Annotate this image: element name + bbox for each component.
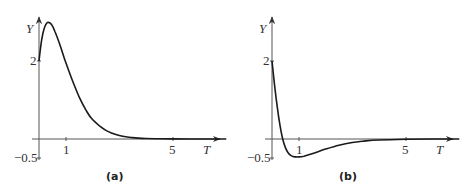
x-tick-label-5: 5 bbox=[402, 142, 409, 157]
x-tick-label-5: 5 bbox=[169, 142, 176, 157]
chart-panel-a: 1 5 T Y 2 −0.5 (a) bbox=[14, 17, 226, 183]
chart-panel-b: 1 5 T Y 2 −0.5 (b) bbox=[247, 17, 459, 183]
panel-label-b: (b) bbox=[339, 170, 357, 183]
x-tick-label-1: 1 bbox=[63, 142, 70, 157]
panel-label-a: (a) bbox=[106, 170, 123, 183]
curve-a bbox=[39, 22, 226, 139]
x-tick-label-1: 1 bbox=[296, 142, 303, 157]
y-tick-label-neg05: −0.5 bbox=[14, 150, 38, 165]
figure: 1 5 T Y 2 −0.5 (a) 1 5 T Y 2 −0.5 (b) bbox=[0, 0, 465, 191]
y-axis-label: Y bbox=[26, 21, 35, 36]
y-tick-label-neg05: −0.5 bbox=[247, 150, 271, 165]
y-tick-label-2: 2 bbox=[30, 53, 37, 68]
y-tick-label-2: 2 bbox=[263, 53, 270, 68]
x-axis-label: T bbox=[203, 142, 211, 157]
x-axis-label: T bbox=[436, 142, 444, 157]
y-axis-label: Y bbox=[259, 21, 268, 36]
